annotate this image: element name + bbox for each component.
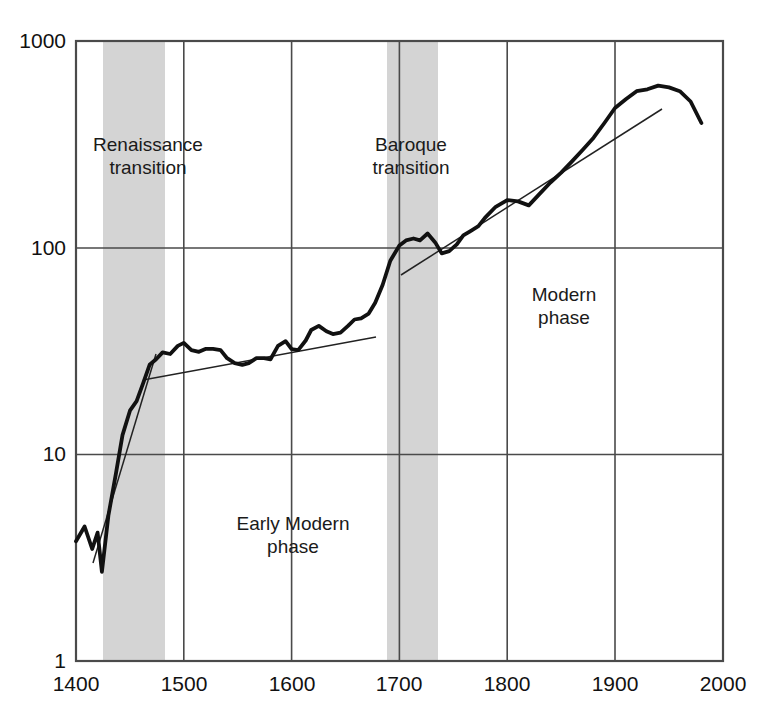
y-tick-label-100: 100 xyxy=(0,236,66,260)
log-line-chart xyxy=(0,0,766,724)
x-tick-label-1900: 1900 xyxy=(569,672,661,696)
x-tick-label-1800: 1800 xyxy=(461,672,553,696)
renaissance-transition-label-line2: transition xyxy=(63,156,233,179)
baroque-transition-label: Baroque transition xyxy=(331,133,491,179)
baroque-transition-label-line1: Baroque xyxy=(331,133,491,156)
early-modern-phase-label-line1: Early Modern xyxy=(208,512,378,535)
early-modern-phase-label: Early Modern phase xyxy=(208,512,378,558)
y-tick-label-1: 1 xyxy=(0,649,66,673)
x-tick-label-1700: 1700 xyxy=(353,672,445,696)
renaissance-transition-label: Renaissance transition xyxy=(63,133,233,179)
modern-phase-label: Modern phase xyxy=(494,283,634,329)
modern-phase-label-line2: phase xyxy=(494,306,634,329)
y-tick-label-1000: 1000 xyxy=(0,29,66,53)
x-tick-label-1500: 1500 xyxy=(138,672,230,696)
renaissance-transition-label-line1: Renaissance xyxy=(63,133,233,156)
x-tick-label-1400: 1400 xyxy=(30,672,122,696)
y-tick-label-10: 10 xyxy=(0,442,66,466)
modern-phase-label-line1: Modern xyxy=(494,283,634,306)
x-tick-label-2000: 2000 xyxy=(677,672,766,696)
baroque-transition-label-line2: transition xyxy=(331,156,491,179)
chart-figure: 1000 100 10 1 1400 1500 1600 1700 1800 1… xyxy=(0,0,766,724)
early-modern-phase-label-line2: phase xyxy=(208,535,378,558)
x-tick-label-1600: 1600 xyxy=(246,672,338,696)
